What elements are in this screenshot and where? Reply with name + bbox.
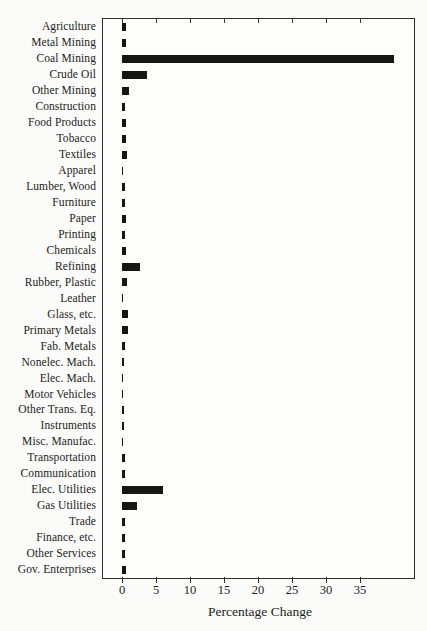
bar (122, 167, 123, 175)
bar-row (103, 450, 414, 466)
bar-chart: AgricultureMetal MiningCoal MiningCrude … (0, 0, 427, 631)
category-label: Crude Oil (0, 67, 96, 83)
bar (122, 278, 127, 286)
bar-row (103, 227, 414, 243)
category-label: Refining (0, 259, 96, 275)
category-label: Elec. Utilities (0, 482, 96, 498)
bar-row (103, 275, 414, 291)
bar (122, 326, 128, 334)
category-label: Other Trans. Eq. (0, 402, 96, 418)
bar-row (103, 498, 414, 514)
category-label: Gov. Enterprises (0, 562, 96, 578)
bar (122, 263, 140, 271)
bar-row (103, 354, 414, 370)
category-label: Elec. Mach. (0, 370, 96, 386)
bar (122, 550, 125, 558)
bar-row (103, 402, 414, 418)
bar-row (103, 195, 414, 211)
bar-row (103, 211, 414, 227)
bar (122, 247, 126, 255)
category-label: Rubber, Plastic (0, 275, 96, 291)
category-label: Trade (0, 514, 96, 530)
x-axis-top-tick (258, 19, 259, 23)
x-axis-tick-label: 15 (218, 583, 231, 598)
bar-row (103, 115, 414, 131)
x-axis-top-tick (156, 19, 157, 23)
x-axis-tick-label: 35 (354, 583, 367, 598)
bar-row (103, 290, 414, 306)
bar (122, 406, 124, 414)
bar-row (103, 19, 414, 35)
bar (122, 422, 124, 430)
bar-series (103, 19, 414, 578)
x-axis-tick-label: 20 (252, 583, 265, 598)
category-label: Finance, etc. (0, 530, 96, 546)
bar (122, 390, 123, 398)
bar (122, 135, 126, 143)
bar-row (103, 163, 414, 179)
bar-row (103, 131, 414, 147)
category-label: Other Services (0, 546, 96, 562)
bar (122, 231, 125, 239)
bar-row (103, 530, 414, 546)
bar-row (103, 83, 414, 99)
category-label: Communication (0, 466, 96, 482)
bar (122, 199, 125, 207)
category-label: Apparel (0, 163, 96, 179)
bar-row (103, 338, 414, 354)
bar-row (103, 370, 414, 386)
bar-row (103, 466, 414, 482)
category-label: Leather (0, 290, 96, 306)
x-axis-top-tick (224, 19, 225, 23)
category-label: Food Products (0, 115, 96, 131)
category-label: Other Mining (0, 83, 96, 99)
bar (122, 71, 147, 79)
bar (122, 342, 125, 350)
bar-row (103, 243, 414, 259)
x-axis-top-tick (122, 19, 123, 23)
bar (122, 39, 126, 47)
bar (122, 87, 129, 95)
x-axis-top-tick (292, 19, 293, 23)
bar (122, 103, 125, 111)
category-label: Furniture (0, 195, 96, 211)
x-axis-tick-label: 5 (153, 583, 159, 598)
bar-row (103, 482, 414, 498)
bar-row (103, 259, 414, 275)
x-axis-title: Percentage Change (122, 604, 398, 620)
bar (122, 438, 123, 446)
category-label: Lumber, Wood (0, 179, 96, 195)
bar (122, 23, 126, 31)
category-label: Coal Mining (0, 51, 96, 67)
x-axis-top-tick (326, 19, 327, 23)
bar (122, 55, 394, 63)
category-label: Metal Mining (0, 35, 96, 51)
category-label: Printing (0, 227, 96, 243)
x-axis-tick-label: 30 (320, 583, 333, 598)
bar (122, 294, 123, 302)
bar-row (103, 306, 414, 322)
category-label: Instruments (0, 418, 96, 434)
x-axis-top-tick (190, 19, 191, 23)
category-label: Fab. Metals (0, 338, 96, 354)
bar (122, 215, 126, 223)
bar (122, 151, 127, 159)
category-label: Motor Vehicles (0, 386, 96, 402)
bar-row (103, 99, 414, 115)
category-label: Gas Utilities (0, 498, 96, 514)
bar-row (103, 179, 414, 195)
category-label: Agriculture (0, 19, 96, 35)
bar (122, 470, 125, 478)
bar-row (103, 67, 414, 83)
bar-row (103, 546, 414, 562)
category-label: Nonelec. Mach. (0, 354, 96, 370)
bar-row (103, 35, 414, 51)
bar (122, 566, 126, 574)
category-label: Glass, etc. (0, 306, 96, 322)
bar (122, 374, 123, 382)
category-label: Chemicals (0, 243, 96, 259)
bar (122, 310, 128, 318)
category-label: Paper (0, 211, 96, 227)
bar (122, 534, 125, 542)
bar-row (103, 386, 414, 402)
